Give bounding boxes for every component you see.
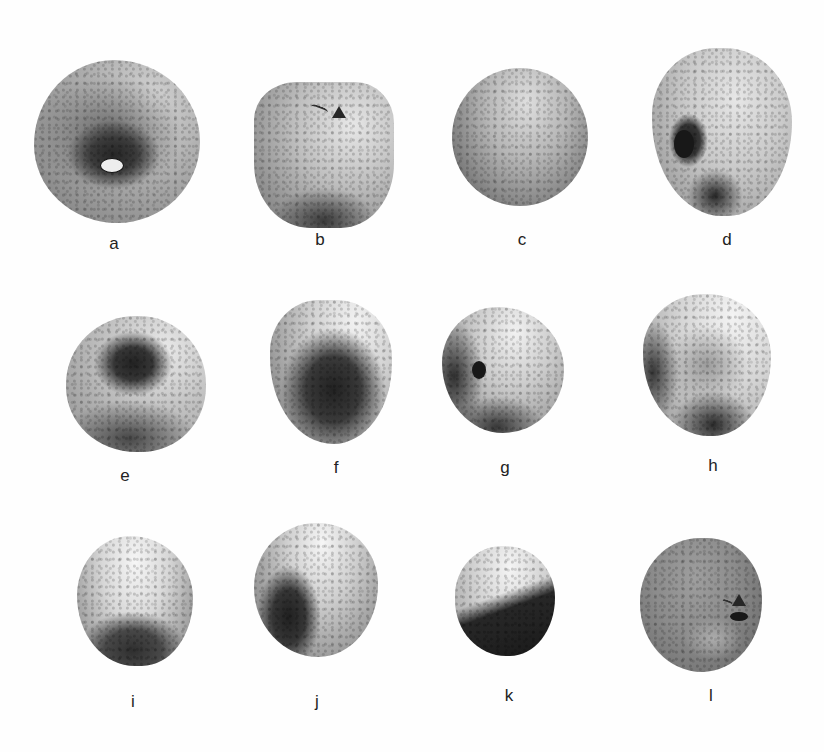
stone-label-d: d [717, 230, 737, 250]
catalogue-number-oval [472, 361, 486, 379]
stone-g-image [442, 307, 564, 433]
handwritten-mark [309, 103, 329, 117]
stone-d-image [652, 48, 792, 216]
stone-h-image [643, 294, 771, 436]
stone-label-l: l [701, 686, 721, 706]
stone-label-e: e [115, 466, 135, 486]
catalogue-number-oval [730, 612, 748, 621]
stone-l-image [640, 538, 762, 672]
stone-label-g: g [495, 458, 515, 478]
stone-label-h: h [703, 456, 723, 476]
catalogue-number-oval [674, 130, 694, 158]
stone-j-image [254, 523, 378, 657]
stone-k-image [455, 546, 555, 656]
triangle-mark-icon [332, 106, 346, 118]
triangle-mark-icon [732, 594, 746, 606]
stone-label-a: a [104, 234, 124, 254]
stone-f-image [270, 300, 392, 444]
stone-label-k: k [499, 686, 519, 706]
catalogue-number-oval [100, 158, 124, 173]
handwritten-mark [721, 598, 732, 607]
stone-c-image [452, 68, 588, 206]
stone-e-image [66, 316, 206, 452]
stone-a-image [34, 60, 200, 223]
stone-label-b: b [310, 230, 330, 250]
stone-label-f: f [326, 458, 346, 478]
stone-i-image [77, 536, 193, 666]
stone-figure-plate: a b c d e f g h i j k l [0, 0, 824, 752]
stone-label-c: c [512, 230, 532, 250]
stone-label-j: j [307, 692, 327, 712]
stone-label-i: i [123, 692, 143, 712]
stone-b-image [254, 82, 394, 228]
